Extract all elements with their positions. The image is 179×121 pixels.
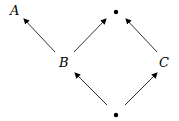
hasse-diagram: A B C	[0, 0, 179, 121]
edge-c-to-top	[126, 19, 157, 52]
edge-bottom-to-c	[125, 73, 157, 105]
node-bottom-dot	[114, 113, 118, 117]
diagram-edges	[0, 0, 179, 121]
node-c-label: C	[159, 56, 169, 69]
node-b-label: B	[59, 56, 69, 69]
node-top-dot	[114, 10, 118, 14]
edge-b-to-top	[74, 19, 106, 52]
edge-b-to-a	[24, 19, 55, 52]
node-a-label: A	[10, 4, 19, 17]
edge-bottom-to-b	[75, 73, 107, 105]
